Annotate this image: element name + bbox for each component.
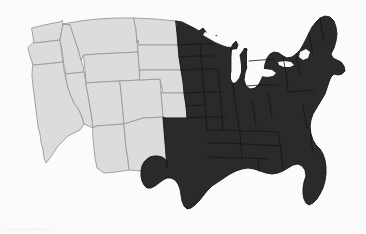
- state-south-dakota: [138, 45, 181, 70]
- us-map-graphic: [0, 0, 366, 234]
- state-oregon: [28, 40, 63, 65]
- state-washington: [32, 20, 63, 43]
- lake-huron: [247, 47, 257, 70]
- state-arizona: [93, 124, 129, 173]
- state-kansas: [161, 92, 187, 118]
- state-north-dakota: [134, 18, 178, 45]
- michigan-upper-gap: [239, 42, 254, 48]
- watermark-text: mapsofworld.com: [3, 226, 53, 232]
- state-wyoming: [84, 52, 140, 83]
- us-map-figure: mapsofworld.com: [0, 0, 366, 234]
